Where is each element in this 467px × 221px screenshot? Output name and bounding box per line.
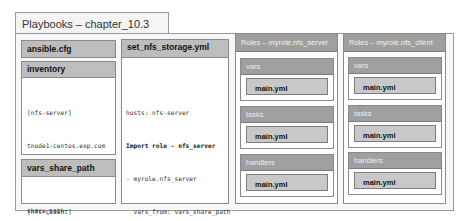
inventory-label: inventory	[22, 62, 115, 78]
inventory-line: [nfs-server]	[27, 107, 115, 118]
playbook-box: set_nfs_storage.yml hosts: nfs-server Im…	[121, 39, 229, 204]
dir-label: tasks	[241, 107, 333, 123]
role-nfs-client-box: Roles – myrole.nfs_client vars main.yml …	[343, 33, 446, 204]
role-dir-vars: vars main.yml	[348, 57, 442, 100]
vars-share-path-content: share_path mount_path	[22, 177, 115, 221]
main-yml-file: main.yml	[354, 172, 436, 189]
inventory-line: tnode1-centos.exp.com	[27, 140, 115, 151]
ansible-cfg-box: ansible.cfg	[21, 40, 116, 58]
dir-label: tasks	[349, 106, 441, 122]
ansible-cfg-label: ansible.cfg	[22, 41, 115, 57]
play-import-role: Import role - nfs_server	[126, 140, 228, 151]
inventory-box: inventory [nfs-server] tnode1-centos.exp…	[21, 61, 116, 155]
vars-share-path-label: vars_share_path	[22, 160, 115, 177]
role-dir-vars: vars main.yml	[240, 58, 334, 101]
diagram-title: Playbooks – chapter_10.3	[22, 18, 149, 30]
role-nfs-client-label: Roles – myrole.nfs_client	[344, 34, 445, 52]
play-role: - myrole.nfs_server	[126, 173, 228, 184]
playbook-label: set_nfs_storage.yml	[122, 40, 228, 58]
playbook-content: hosts: nfs-server Import role - nfs_serv…	[122, 58, 228, 221]
dir-label: handlers	[349, 153, 441, 169]
main-yml-file: main.yml	[354, 125, 436, 142]
main-yml-file: main.yml	[246, 78, 328, 95]
playbooks-title-tab: Playbooks – chapter_10.3	[15, 12, 169, 35]
play-hosts: hosts: nfs-server	[126, 107, 228, 118]
role-dir-tasks: tasks main.yml	[240, 106, 334, 149]
role-nfs-server-label: Roles – myrole.nfs_server	[236, 34, 337, 52]
role-dir-handlers: handlers main.yml	[240, 154, 334, 197]
main-yml-file: main.yml	[246, 126, 328, 143]
vars-share-path-box: vars_share_path share_path mount_path	[21, 159, 116, 204]
role-dir-tasks: tasks main.yml	[348, 105, 442, 148]
dir-label: vars	[349, 58, 441, 74]
role-nfs-server-box: Roles – myrole.nfs_server vars main.yml …	[235, 33, 338, 204]
main-yml-file: main.yml	[246, 174, 328, 191]
play-vars-from: vars_from: vars_share_path	[126, 206, 228, 217]
dir-label: handlers	[241, 155, 333, 171]
var-line: share_path	[27, 205, 115, 216]
role-dir-handlers: handlers main.yml	[348, 152, 442, 195]
dir-label: vars	[241, 59, 333, 75]
main-yml-file: main.yml	[354, 77, 436, 94]
